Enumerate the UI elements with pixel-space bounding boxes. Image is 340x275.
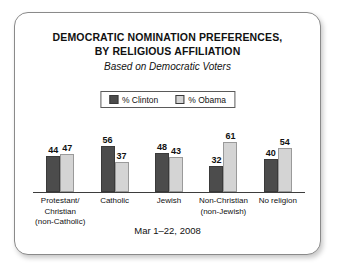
chart-title-line-1: DEMOCRATIC NOMINATION PREFERENCES, [15,31,320,45]
chart-figure-frame: DEMOCRATIC NOMINATION PREFERENCES, BY RE… [14,12,321,255]
bar-obama[interactable] [115,162,129,192]
chart-title-block: DEMOCRATIC NOMINATION PREFERENCES, BY RE… [15,31,320,74]
bar-clinton[interactable] [155,153,169,192]
bar-group: 3261 [209,124,238,192]
bar-group: 4054 [263,124,292,192]
bar-column[interactable]: 48 [155,124,169,192]
chart-title-line-2: BY RELIGIOUS AFFILIATION [15,45,320,59]
category-label-line: (non-Jewish) [191,207,255,218]
obama-swatch-icon [175,95,184,104]
bar-column[interactable]: 47 [60,124,74,192]
bar-group: 5637 [100,124,129,192]
bar-group: 4447 [46,124,75,192]
legend-label-obama: % Obama [188,95,226,105]
chart-container: DEMOCRATIC NOMINATION PREFERENCES, BY RE… [15,13,320,254]
bar-obama[interactable] [278,148,292,192]
legend-label-clinton: % Clinton [122,95,158,105]
bar-column[interactable]: 54 [278,124,292,192]
category-label-line: Christian [28,207,92,218]
bar-column[interactable]: 40 [264,124,278,192]
category-label-line: No religion [246,196,310,207]
chart-legend: % Clinton % Obama [100,91,235,108]
bar-obama[interactable] [169,157,183,192]
legend-entry-clinton: % Clinton [109,95,158,105]
chart-subtitle: Based on Democratic Voters [15,59,320,74]
bar-group: 4843 [155,124,184,192]
bar-value-label: 47 [55,143,79,153]
bar-value-label: 61 [218,131,242,141]
legend-entry-obama: % Obama [175,95,226,105]
chart-footer-note: Mar 1–22, 2008 [15,225,320,236]
bar-value-label: 37 [110,151,134,161]
bar-clinton[interactable] [46,156,60,192]
x-axis-baseline [33,192,305,194]
category-label: No religion [246,196,310,207]
clinton-swatch-icon [109,95,118,104]
plot-area: 44475637484332614054 [33,125,305,193]
bar-obama[interactable] [223,142,237,191]
bar-obama[interactable] [60,154,74,192]
bar-clinton[interactable] [209,166,223,192]
bar-column[interactable]: 61 [223,124,237,192]
bar-column[interactable]: 44 [46,124,60,192]
bar-clinton[interactable] [264,159,278,191]
bar-value-label: 43 [164,146,188,156]
bar-column[interactable]: 37 [115,124,129,192]
bar-column[interactable]: 43 [169,124,183,192]
bar-value-label: 54 [273,137,297,147]
